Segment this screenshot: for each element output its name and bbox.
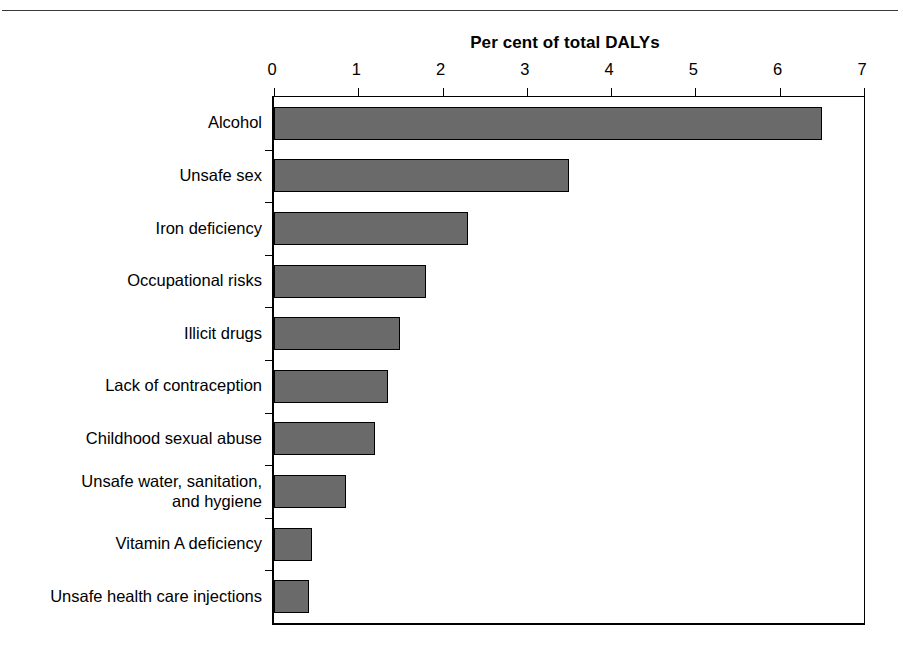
y-axis-tick-mark	[265, 570, 274, 571]
bar	[274, 159, 569, 192]
x-axis-tick-mark	[443, 88, 444, 97]
top-divider-rule	[2, 10, 898, 11]
y-axis-tick-mark	[265, 518, 274, 519]
x-axis-tick-mark	[358, 88, 359, 97]
bar	[274, 422, 375, 455]
y-axis-category-labels: AlcoholUnsafe sexIron deficiencyOccupati…	[0, 96, 262, 622]
y-axis-tick-mark	[265, 360, 274, 361]
bar	[274, 265, 426, 298]
x-axis-tick-mark	[695, 88, 696, 97]
x-axis-tick-mark	[611, 88, 612, 97]
y-axis-category-label: Unsafe health care injections	[0, 586, 262, 606]
x-axis-tick-label: 5	[689, 59, 698, 79]
x-axis-tick-labels: 01234567	[0, 59, 903, 81]
chart-figure: Per cent of total DALYs 01234567 Alcohol…	[0, 0, 903, 658]
y-axis-category-label: Lack of contraception	[0, 375, 262, 395]
bar	[274, 107, 822, 140]
y-axis-tick-mark	[265, 413, 274, 414]
x-axis-tick-label: 0	[267, 59, 276, 79]
x-axis-tick-label: 4	[605, 59, 614, 79]
x-axis-tick-mark	[274, 88, 275, 97]
bar	[274, 475, 346, 508]
x-axis-tick-label: 3	[520, 59, 529, 79]
x-axis-tick-mark	[780, 88, 781, 97]
bar	[274, 317, 400, 350]
x-axis-tick-mark	[527, 88, 528, 97]
y-axis-category-label: Iron deficiency	[0, 218, 262, 238]
bar	[274, 528, 312, 561]
x-axis-tick-label: 6	[773, 59, 782, 79]
chart-title: Per cent of total DALYs	[0, 33, 903, 53]
y-axis-category-label: Illicit drugs	[0, 323, 262, 343]
x-axis-tick-label: 1	[352, 59, 361, 79]
x-axis-tick-label: 2	[436, 59, 445, 79]
y-axis-category-label: Alcohol	[0, 112, 262, 132]
y-axis-tick-mark	[265, 465, 274, 466]
x-axis-tick-label: 7	[857, 59, 866, 79]
y-axis-tick-mark	[265, 255, 274, 256]
bar	[274, 212, 468, 245]
y-axis-category-label: Vitamin A deficiency	[0, 533, 262, 553]
bar	[274, 370, 388, 403]
y-axis-category-label: Occupational risks	[0, 270, 262, 290]
y-axis-tick-mark	[265, 150, 274, 151]
y-axis-category-label: Unsafe sex	[0, 165, 262, 185]
y-axis-category-label: Childhood sexual abuse	[0, 428, 262, 448]
bar	[274, 580, 309, 613]
plot-area	[272, 96, 865, 625]
y-axis-category-label: Unsafe water, sanitation, and hygiene	[0, 471, 262, 511]
x-axis-tick-mark	[864, 88, 865, 97]
y-axis-tick-mark	[265, 202, 274, 203]
y-axis-tick-mark	[265, 307, 274, 308]
